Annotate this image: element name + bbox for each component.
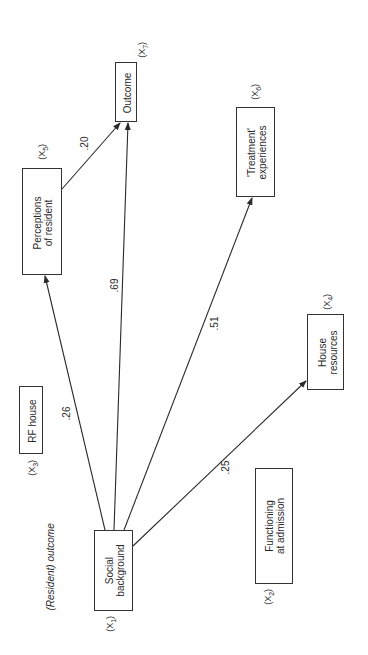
node-label: 'Treatment' experiences <box>237 108 276 198</box>
var-x4: (X4) <box>322 294 334 310</box>
node-social-background: Social background <box>94 530 133 611</box>
node-perceptions-of-resident: Perceptions of resident <box>22 168 62 275</box>
coef-x1-x7: .69 <box>109 279 120 293</box>
resident-outcome-note: (Resident) outcome <box>45 527 56 611</box>
var-x2: (X2) <box>263 589 275 605</box>
edge-x5-x7 <box>62 123 120 189</box>
node-label: Perceptions of resident <box>23 170 63 277</box>
var-x1: (X1) <box>105 616 117 632</box>
var-x7: (X7) <box>137 42 149 58</box>
node-house-resources: House resources <box>307 314 344 390</box>
edge-x1-x7 <box>114 123 128 530</box>
edge-x1-x6 <box>124 198 252 530</box>
var-x6: (X6) <box>250 84 262 100</box>
node-functioning-at-admission: Functioning at admission <box>255 468 293 584</box>
coef-x1-x6: .51 <box>209 317 220 331</box>
node-label: House resources <box>309 315 346 391</box>
coef-x5-x7: .20 <box>79 137 90 151</box>
node-label: Social background <box>95 530 134 611</box>
node-rf-house: RF house <box>19 386 43 454</box>
node-label: Outcome <box>116 63 138 123</box>
coef-x1-x4: .25 <box>220 461 231 475</box>
var-x5: (X5) <box>37 144 49 160</box>
var-x3: (X3) <box>27 460 39 476</box>
node-treatment-experiences: 'Treatment' experiences <box>236 107 275 197</box>
edge-x1-x5 <box>45 276 105 530</box>
coef-x1-x5: .26 <box>61 407 72 421</box>
node-label: Functioning at admission <box>256 468 294 584</box>
node-outcome: Outcome <box>115 62 137 122</box>
node-label: RF house <box>20 387 44 455</box>
